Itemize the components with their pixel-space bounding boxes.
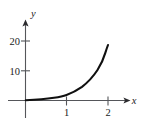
x-tick-label-2: 2	[105, 107, 110, 118]
data-curve	[26, 45, 108, 100]
x-axis-label: x	[131, 95, 137, 106]
x-tick-label-1: 1	[64, 107, 69, 118]
y-axis-label: y	[30, 8, 36, 19]
graph-canvas: 20 10 1 2 y x	[0, 0, 144, 123]
y-tick-label-10: 10	[10, 66, 21, 77]
y-tick-label-20: 20	[10, 36, 21, 47]
figure-container: 20 10 1 2 y x	[0, 0, 144, 123]
